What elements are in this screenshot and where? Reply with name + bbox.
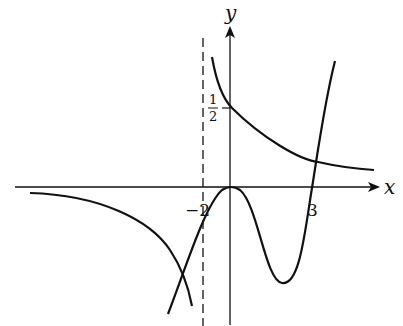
tick-label-half-denominator: 2: [209, 109, 217, 124]
x-axis-label: x: [384, 175, 395, 199]
hyperbola-right-branch: [212, 57, 374, 170]
tick-label-three: 3: [307, 200, 318, 220]
tick-label-neg-two: −2: [185, 200, 210, 220]
tick-label-half-numerator: 1: [209, 92, 217, 107]
function-graph: y x −2 3 1 2: [0, 0, 403, 326]
hyperbola-left-branch: [30, 193, 192, 306]
y-axis-label: y: [224, 1, 237, 25]
